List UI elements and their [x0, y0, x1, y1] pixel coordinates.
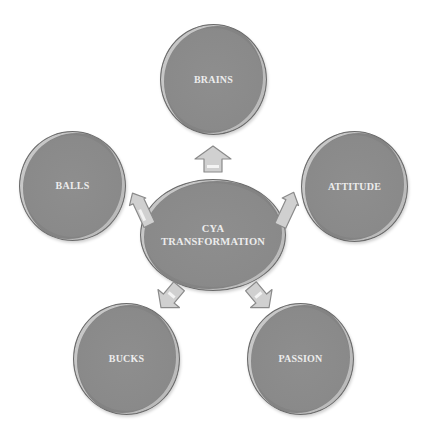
node-brains-label: BRAINS — [194, 74, 233, 86]
node-balls-label: BALLS — [56, 180, 90, 192]
center-node: CYA TRANSFORMATION — [140, 179, 286, 291]
node-brains: BRAINS — [160, 24, 267, 135]
node-bucks-label: BUCKS — [109, 353, 144, 365]
center-label-line1: CYA — [161, 222, 265, 235]
node-balls: BALLS — [19, 131, 126, 241]
node-passion-label: PASSION — [278, 353, 322, 365]
node-attitude-label: ATTITUDE — [328, 181, 381, 193]
arrow-upleft-icon — [126, 187, 156, 231]
center-label-line2: TRANSFORMATION — [161, 235, 265, 248]
node-passion: PASSION — [247, 303, 354, 415]
arrow-downleft-icon — [150, 280, 190, 314]
arrow-downright-icon — [240, 280, 280, 314]
arrow-upright-icon — [272, 187, 302, 231]
center-node-label: CYA TRANSFORMATION — [161, 222, 265, 248]
cya-transformation-diagram: BRAINS BALLS ATTITUDE BUCKS PASSION CYA … — [0, 0, 427, 437]
node-attitude: ATTITUDE — [301, 131, 408, 242]
node-bucks: BUCKS — [73, 303, 180, 415]
arrow-up-icon — [193, 145, 233, 173]
